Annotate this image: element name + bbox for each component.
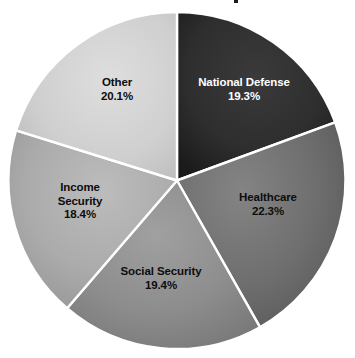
pie-chart: National Defense 19.3% Healthcare 22.3% …	[0, 0, 355, 358]
pie-chart-svg	[0, 0, 355, 358]
